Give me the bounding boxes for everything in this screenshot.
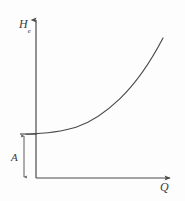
y-axis-label-main: H (19, 17, 28, 31)
y-axis-label-subscript: e (28, 27, 31, 35)
y-axis-label-head: He (19, 18, 31, 33)
pump-head-characteristic-figure: He Q A (0, 0, 185, 201)
x-axis-label-flow: Q (160, 181, 169, 193)
static-head-dimension-label: A (11, 152, 18, 163)
system-head-curve (26, 38, 163, 134)
